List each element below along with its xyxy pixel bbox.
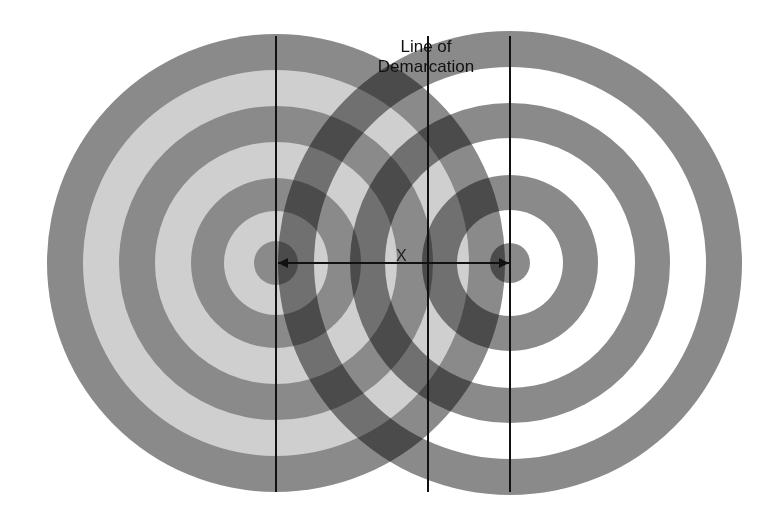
demarcation-label-line-2: Demarcation (356, 57, 496, 77)
distance-label: X (396, 248, 407, 264)
arrowhead-right-icon (499, 258, 509, 268)
demarcation-label: Line of Demarcation (356, 37, 496, 77)
line-of-demarcation (427, 36, 429, 492)
distance-arrow (278, 262, 509, 264)
right-center-line (509, 36, 511, 492)
arrowhead-left-icon (278, 258, 288, 268)
left-center-line (275, 36, 277, 492)
overlapping-targets-diagram: X Line of Demarcation (0, 0, 775, 524)
demarcation-label-line-1: Line of (356, 37, 496, 57)
